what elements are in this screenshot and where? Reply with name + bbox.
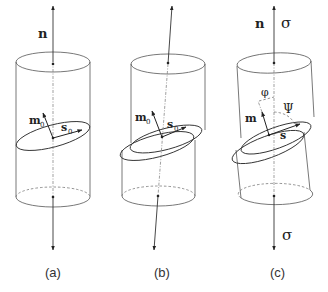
- axis-up-arrow: [168, 6, 172, 64]
- label-sigma-top: σ: [281, 14, 291, 32]
- m0-vector: [152, 111, 162, 137]
- top-center-dot: [273, 62, 276, 65]
- slip-geometry-figure: n m 0 s 0 (a) m 0 s 0 (b): [0, 0, 328, 292]
- upper-left-edge: [237, 66, 241, 138]
- label-psi: Ψ: [283, 102, 294, 116]
- lower-right-edge: [304, 132, 310, 190]
- label-s0: s: [61, 121, 67, 134]
- caption-b: (b): [154, 265, 170, 280]
- label-s0: s: [167, 118, 173, 131]
- label-m0-sub: 0: [40, 121, 44, 129]
- label-s0-sub: 0: [68, 128, 72, 136]
- bottom-center-dot: [52, 196, 55, 199]
- bottom-center-dot: [273, 195, 276, 198]
- lower-bottom-front-edge: [241, 190, 313, 205]
- panel-b: m 0 s 0 (b): [117, 6, 205, 280]
- label-s0-sub: 0: [174, 125, 178, 133]
- caption-a: (a): [45, 265, 61, 280]
- bottom-center-dot: [157, 195, 160, 198]
- m0-vector: [43, 113, 53, 138]
- panel-a: n m 0 s 0 (a): [13, 6, 92, 280]
- top-center-dot: [167, 62, 170, 65]
- caption-c: (c): [270, 265, 285, 280]
- label-sigma-bottom: σ: [282, 226, 292, 244]
- label-m: m: [245, 112, 257, 125]
- panel-c: n σ φ Ψ m s σ (c): [229, 6, 315, 280]
- lower-left-edge: [236, 150, 241, 198]
- axis-down-arrow: [154, 196, 158, 250]
- label-n: n: [255, 16, 265, 31]
- label-m0-sub: 0: [146, 118, 150, 126]
- top-center-dot: [52, 63, 55, 66]
- phi-reference-line: [258, 101, 262, 112]
- label-n: n: [38, 26, 48, 41]
- label-phi: φ: [261, 86, 269, 99]
- lower-bottom-front-edge: [122, 196, 195, 206]
- label-s: s: [280, 129, 286, 142]
- upper-right-edge: [311, 61, 314, 117]
- slip-plane-lower: [117, 126, 196, 167]
- slip-plane: [13, 116, 92, 157]
